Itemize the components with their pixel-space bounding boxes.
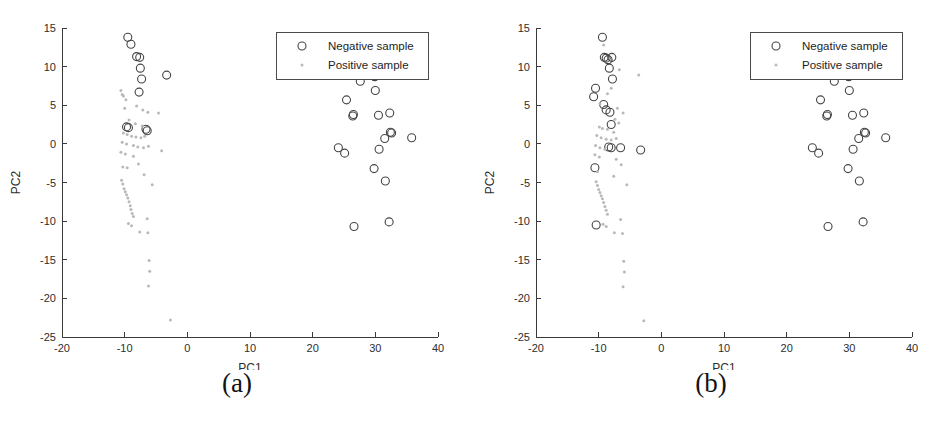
x-tick-label: 10 <box>718 342 730 354</box>
y-tick-label: 0 <box>50 138 56 150</box>
positive-sample-points <box>593 43 645 322</box>
positive-sample-marker <box>596 184 599 187</box>
negative-sample-marker <box>605 64 613 72</box>
positive-sample-marker <box>606 128 609 131</box>
negative-sample-marker <box>381 177 389 185</box>
positive-sample-marker <box>600 136 603 139</box>
negative-sample-marker <box>341 149 349 157</box>
positive-sample-marker <box>610 87 613 90</box>
x-tick-label: 0 <box>658 342 664 354</box>
x-tick-label: -10 <box>591 342 607 354</box>
y-tick-label: -20 <box>40 292 56 304</box>
positive-sample-marker <box>620 163 623 166</box>
positive-sample-marker <box>141 125 144 128</box>
x-tick-label: 20 <box>781 342 793 354</box>
panel-a: -20-10010203040151050-5-10-15-20-25PC1PC… <box>0 0 474 432</box>
y-tick-label: -10 <box>40 215 56 227</box>
legend: Negative samplePositive sample <box>276 32 428 79</box>
negative-sample-marker <box>408 134 416 142</box>
positive-sample-marker <box>125 142 128 145</box>
positive-sample-marker <box>601 197 604 200</box>
negative-sample-marker <box>817 96 825 104</box>
negative-sample-marker <box>343 96 351 104</box>
positive-sample-marker <box>605 225 608 228</box>
y-tick-label: 10 <box>44 61 56 73</box>
positive-sample-marker <box>618 68 621 71</box>
y-tick-label: 15 <box>44 22 56 34</box>
positive-sample-marker <box>602 223 605 226</box>
positive-sample-marker <box>120 179 123 182</box>
negative-sample-marker <box>386 109 394 117</box>
negative-sample-marker <box>855 134 863 142</box>
negative-sample-marker <box>163 71 171 79</box>
positive-sample-marker <box>621 232 624 235</box>
positive-sample-marker <box>613 118 616 121</box>
positive-sample-marker <box>605 209 608 212</box>
positive-sample-marker <box>123 107 126 110</box>
x-tick-label: 30 <box>369 342 381 354</box>
positive-sample-marker <box>132 215 135 218</box>
positive-sample-marker <box>617 122 620 125</box>
positive-sample-marker <box>137 162 140 165</box>
x-tick-label: 40 <box>432 342 444 354</box>
positive-sample-marker <box>123 187 126 190</box>
negative-sample-marker <box>350 223 358 231</box>
positive-sample-marker <box>637 74 640 77</box>
positive-sample-marker <box>128 118 131 121</box>
positive-sample-marker <box>143 135 146 138</box>
positive-sample-marker <box>130 224 133 227</box>
positive-sample-marker <box>139 136 142 139</box>
negative-sample-marker <box>882 134 890 142</box>
positive-sample-marker <box>146 217 149 220</box>
negative-sample-marker <box>138 75 146 83</box>
positive-sample-marker <box>622 111 625 114</box>
scatter-plot-b: -20-10010203040151050-5-10-15-20-25PC1PC… <box>474 0 948 370</box>
positive-sample-marker <box>119 89 122 92</box>
positive-sample-marker <box>142 146 145 149</box>
panel-b-caption: (b) <box>474 368 948 399</box>
y-tick-label: 5 <box>50 99 56 111</box>
positive-sample-marker <box>602 201 605 204</box>
positive-sample-marker <box>132 155 135 158</box>
positive-sample-marker <box>593 153 596 156</box>
negative-sample-marker <box>371 87 379 95</box>
positive-sample-marker <box>122 94 125 97</box>
negative-sample-marker <box>127 40 135 48</box>
positive-sample-marker <box>595 134 598 137</box>
positive-sample-marker <box>124 152 127 155</box>
positive-sample-marker <box>612 175 615 178</box>
positive-sample-marker <box>124 98 127 101</box>
positive-sample-marker <box>122 132 125 135</box>
x-tick-label: -20 <box>528 342 544 354</box>
scatter-plot-a: -20-10010203040151050-5-10-15-20-25PC1PC… <box>0 0 474 370</box>
positive-sample-marker <box>603 205 606 208</box>
positive-sample-marker <box>148 259 151 262</box>
legend-dot-icon <box>775 64 778 67</box>
positive-sample-marker <box>129 208 132 211</box>
positive-sample-marker <box>606 92 609 95</box>
negative-sample-marker <box>381 134 389 142</box>
positive-sample-marker <box>595 180 598 183</box>
y-tick-label: 5 <box>524 99 530 111</box>
negative-sample-marker <box>608 75 616 83</box>
x-tick-label: 40 <box>906 342 918 354</box>
negative-sample-marker <box>385 218 393 226</box>
y-tick-label: -25 <box>514 331 530 343</box>
y-tick-label: -10 <box>514 215 530 227</box>
positive-sample-marker <box>121 141 124 144</box>
legend-positive-label: Positive sample <box>802 59 883 71</box>
positive-sample-marker <box>121 166 124 169</box>
negative-sample-marker <box>637 146 645 154</box>
positive-sample-marker <box>613 231 616 234</box>
negative-sample-marker <box>859 218 867 226</box>
positive-sample-marker <box>136 145 139 148</box>
y-tick-label: -15 <box>40 254 56 266</box>
legend-positive-label: Positive sample <box>328 59 409 71</box>
x-tick-label: 10 <box>244 342 256 354</box>
negative-sample-marker <box>136 64 144 72</box>
positive-sample-marker <box>615 158 618 161</box>
negative-sample-marker <box>848 111 856 119</box>
positive-sample-marker <box>119 151 122 154</box>
y-axis-title: PC2 <box>9 171 23 195</box>
negative-sample-marker <box>590 93 598 101</box>
